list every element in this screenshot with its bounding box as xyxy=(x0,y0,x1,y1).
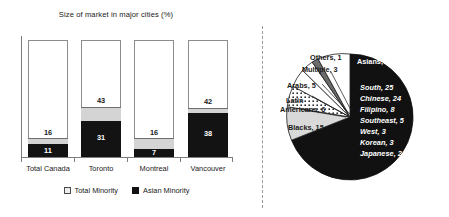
asian-breakdown-japanese: Japanese, 2 xyxy=(360,149,402,158)
asian-breakdown-southeast: Southeast, 5 xyxy=(360,116,404,125)
asian-breakdown-filipino: Filipino, 8 xyxy=(360,105,395,114)
bar-total-canada[interactable]: 16 11 xyxy=(28,40,68,157)
bar-value-total: 16 xyxy=(28,128,68,137)
asian-breakdown-korean: Korean, 3 xyxy=(360,138,394,147)
axis-tick xyxy=(127,157,128,162)
bar-value-total: 16 xyxy=(134,128,174,137)
pie-label-blacks: Blacks, 15 xyxy=(288,123,324,132)
asian-breakdown-chinese: Chinese, 24 xyxy=(360,94,401,103)
pie-label-latin-americans: Americans, 6 xyxy=(280,105,325,114)
two-panel-figure: Size of market in major cities (%) 16 11… xyxy=(0,0,449,217)
bar-montreal[interactable]: 16 7 xyxy=(134,40,174,157)
legend-label: Total Minority xyxy=(75,186,119,195)
legend-swatch-icon xyxy=(132,187,139,194)
bar-value-asian: 38 xyxy=(188,129,228,138)
bar-toronto[interactable]: 43 31 xyxy=(81,40,121,157)
pie-chart-panel: Race/Ethnicity (%) xyxy=(262,0,449,217)
bar-chart-y-axis xyxy=(21,36,22,158)
bar-vancouver[interactable]: 42 38 xyxy=(188,40,228,157)
bar-category-label: Montreal xyxy=(127,164,181,173)
bar-value-asian: 11 xyxy=(28,146,68,155)
bar-category-label: Vancouver xyxy=(180,164,236,173)
asian-breakdown-south: South, 25 xyxy=(360,83,393,92)
axis-tick xyxy=(180,157,181,162)
axis-tick xyxy=(74,157,75,162)
axis-tick xyxy=(21,157,22,162)
asian-breakdown-west: West, 3 xyxy=(360,127,386,136)
legend-swatch-icon xyxy=(64,187,71,194)
bar-category-label: Total Canada xyxy=(18,164,78,173)
pie-label-arabs: Arabs, 5 xyxy=(287,81,316,90)
bar-chart-title: Size of market in major cities (%) xyxy=(0,10,232,19)
bar-value-asian: 7 xyxy=(134,148,174,157)
legend-item-total-minority[interactable]: Total Minority xyxy=(64,186,119,195)
bar-value-asian: 31 xyxy=(81,133,121,142)
bar-value-total: 43 xyxy=(81,96,121,105)
bar-category-label: Toronto xyxy=(74,164,128,173)
bar-value-total: 42 xyxy=(188,97,228,106)
pie-label-multiple: Multiple, 3 xyxy=(302,65,338,74)
bar-chart-legend: Total Minority Asian Minority xyxy=(21,186,232,195)
pie-label-others: Others, 1 xyxy=(310,53,342,62)
bar-chart-panel: Size of market in major cities (%) 16 11… xyxy=(0,0,240,217)
legend-label: Asian Minority xyxy=(143,186,189,195)
legend-item-asian-minority[interactable]: Asian Minority xyxy=(132,186,189,195)
pie-label-asians: Asians, 69 xyxy=(357,57,393,66)
pie-label-latin: Latin xyxy=(286,96,303,105)
axis-tick xyxy=(232,157,233,162)
